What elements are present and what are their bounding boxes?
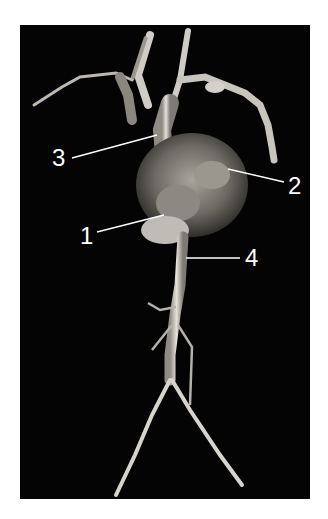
ct-angiogram-image: 3 2 1 4 (20, 25, 310, 499)
leader-lines (20, 25, 310, 499)
callout-label-3: 3 (52, 146, 65, 170)
callout-label-1: 1 (80, 224, 93, 248)
callout-label-4: 4 (245, 246, 258, 270)
callout-label-2: 2 (288, 174, 301, 198)
